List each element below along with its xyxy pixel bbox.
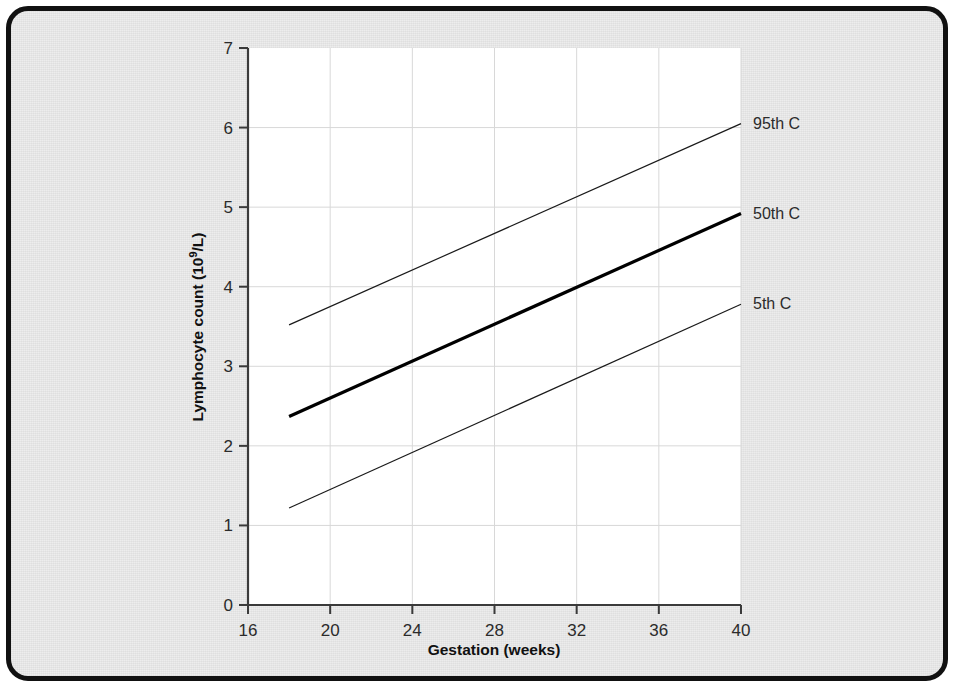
x-axis-title: Gestation (weeks): [428, 641, 561, 658]
y-tick-label: 2: [224, 437, 233, 456]
x-tick-label: 32: [567, 621, 586, 640]
y-axis-ticks: [239, 48, 248, 605]
y-axis-title: Lymphocyte count (109/L): [187, 233, 206, 422]
x-axis-ticks: [248, 605, 741, 614]
y-axis-title-main: Lymphocyte count (10: [189, 258, 206, 422]
centile-label-95th-c: 95th C: [753, 115, 800, 132]
y-tick-label: 5: [224, 198, 233, 217]
y-axis-tick-labels: 01234567: [224, 39, 233, 615]
y-tick-label: 4: [224, 278, 233, 297]
centile-labels: 95th C50th C5th C: [753, 115, 800, 313]
figure-page: 01234567 16202428323640 95th C50th C5th …: [0, 0, 960, 693]
centile-label-50th-c: 50th C: [753, 205, 800, 222]
y-tick-label: 0: [224, 596, 233, 615]
x-tick-label: 28: [485, 621, 504, 640]
centile-label-5th-c: 5th C: [753, 295, 791, 312]
x-tick-label: 40: [732, 621, 751, 640]
lymphocyte-centile-chart: 01234567 16202428323640 95th C50th C5th …: [0, 0, 960, 693]
y-tick-label: 6: [224, 119, 233, 138]
y-tick-label: 1: [224, 516, 233, 535]
y-tick-label: 3: [224, 357, 233, 376]
svg-text:Lymphocyte count (109/L): Lymphocyte count (109/L): [187, 233, 206, 422]
x-tick-label: 36: [649, 621, 668, 640]
x-axis-tick-labels: 16202428323640: [239, 621, 751, 640]
x-tick-label: 16: [239, 621, 258, 640]
y-axis-title-tail: /L): [189, 233, 206, 252]
y-tick-label: 7: [224, 39, 233, 58]
x-tick-label: 20: [321, 621, 340, 640]
x-tick-label: 24: [403, 621, 422, 640]
